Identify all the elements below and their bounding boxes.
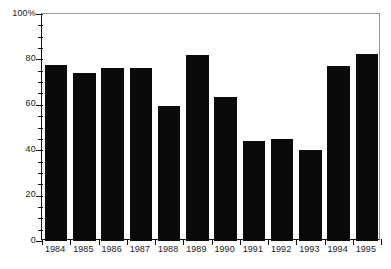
x-axis-tick: [381, 239, 382, 245]
bar-group: [42, 14, 379, 239]
y-axis-tick-label: 60: [26, 99, 36, 108]
y-axis-tick-label: 20: [26, 190, 36, 199]
y-axis-label-group: 020406080100%: [0, 0, 36, 269]
x-axis-tick-label: 1993: [295, 244, 323, 254]
bar-chart: 020406080100% 19841985198619871988198919…: [0, 0, 391, 269]
x-axis-tick-label: 1994: [324, 244, 352, 254]
y-axis-tick-label: 40: [26, 145, 36, 154]
bar: [327, 66, 350, 241]
x-axis-tick-label: 1985: [69, 244, 97, 254]
x-axis-label-group: 1984198519861987198819891990199119921993…: [41, 244, 380, 258]
y-axis-tick-label: 80: [26, 54, 36, 63]
bar: [101, 68, 124, 241]
x-axis-tick-label: 1990: [211, 244, 239, 254]
bar: [158, 106, 181, 241]
x-axis-tick-label: 1986: [98, 244, 126, 254]
x-axis-tick-label: 1987: [126, 244, 154, 254]
x-axis-tick-label: 1991: [239, 244, 267, 254]
x-axis-tick-label: 1992: [267, 244, 295, 254]
y-axis-tick-label: 100%: [12, 9, 36, 18]
bar: [214, 97, 237, 241]
bar: [243, 141, 266, 241]
x-axis-tick-label: 1989: [182, 244, 210, 254]
bar: [271, 139, 294, 241]
plot-area: [41, 13, 380, 240]
bar: [186, 55, 209, 241]
bar: [299, 150, 322, 241]
bar: [73, 73, 96, 241]
bar: [356, 54, 379, 241]
x-axis-tick-label: 1988: [154, 244, 182, 254]
y-axis-tick-label: 0: [31, 236, 36, 245]
x-axis-tick-label: 1984: [41, 244, 69, 254]
bar: [45, 65, 68, 241]
bar: [130, 68, 153, 241]
x-axis-tick-label: 1995: [352, 244, 380, 254]
